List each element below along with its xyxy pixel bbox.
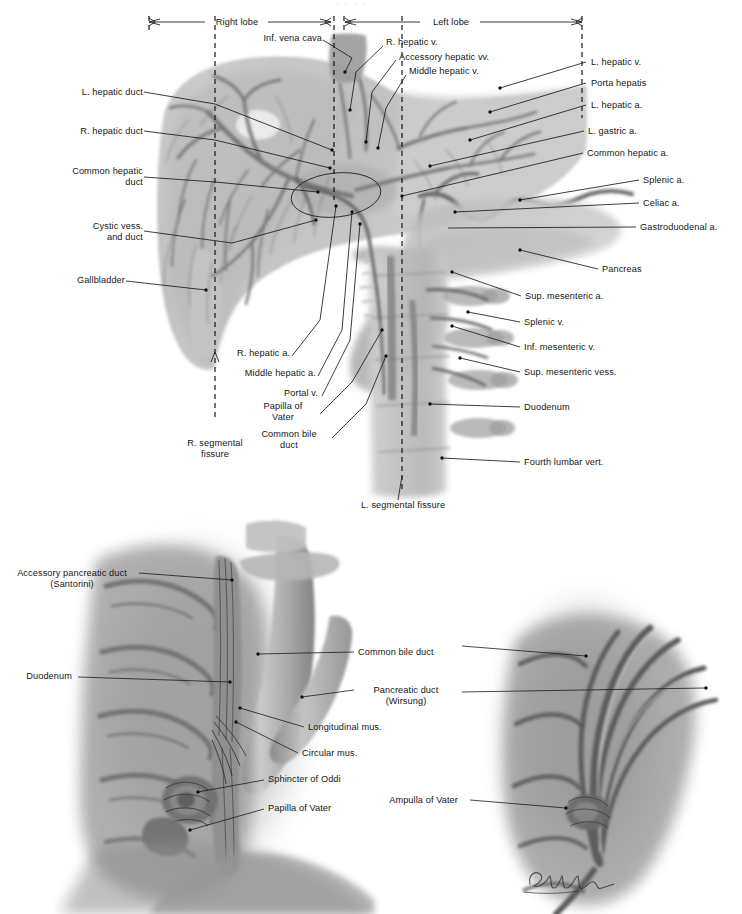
label-fourth-lumbar-vert: Fourth lumbar vert. <box>524 457 604 468</box>
label-sup-mesenteric-vess: Sup. mesenteric vess. <box>524 367 616 378</box>
label-gastroduodenal-a: Gastroduodenal a. <box>640 222 717 233</box>
label-r-hepatic-a: R. hepatic a. <box>180 348 290 359</box>
label-l-gastric-a: L. gastric a. <box>588 126 637 137</box>
label-portal-v: Portal v. <box>200 388 318 399</box>
label-accessory-pancreatic-duct: Accessory pancreatic duct (Santorini) <box>6 568 138 589</box>
label-l-segmental-fissure: L. segmental fissure <box>343 500 463 511</box>
label-accessory-pancreatic-duct-line1: Accessory pancreatic duct <box>17 568 127 578</box>
label-longitudinal-mus: Longitudinal mus. <box>308 722 382 733</box>
ampulla-detail <box>462 592 716 914</box>
label-l-hepatic-v: L. hepatic v. <box>591 57 641 68</box>
label-celiac-a: Celiac a. <box>643 198 680 209</box>
label-splenic-a: Splenic a. <box>643 175 684 186</box>
label-r-hepatic-duct: R. hepatic duct <box>0 126 143 137</box>
label-pancreatic-duct-wirsung: Pancreatic duct (Wirsung) <box>358 685 454 706</box>
label-papilla-of-vater-top-line1: Papilla of <box>264 401 303 411</box>
label-pancreatic-duct-line1: Pancreatic duct <box>374 685 439 695</box>
lumbar-spine <box>368 248 518 498</box>
label-duodenum-bottom: Duodenum <box>0 671 72 682</box>
label-common-hepatic-duct-line2: duct <box>125 177 143 187</box>
label-cystic-vess-line1: Cystic vess. <box>93 221 143 231</box>
anatomy-plate: · · · · <box>0 0 742 914</box>
label-accessory-hepatic-vv: Accessory hepatic vv. <box>399 52 489 63</box>
label-papilla-of-vater-top: Papilla of Vater <box>248 401 318 422</box>
label-r-segmental-fissure-line2: fissure <box>201 449 229 459</box>
label-middle-hepatic-a: Middle hepatic a. <box>190 368 316 379</box>
label-common-bile-duct-top-line1: Common bile <box>261 429 316 439</box>
label-porta-hepatis: Porta hepatis <box>591 78 646 89</box>
label-sphincter-of-oddi: Sphincter of Oddi <box>268 774 341 785</box>
label-middle-hepatic-v: Middle hepatic v. <box>409 66 479 77</box>
label-r-segmental-fissure-line1: R. segmental <box>187 438 242 448</box>
label-sup-mesenteric-a: Sup. mesenteric a. <box>525 291 603 302</box>
label-pancreatic-duct-line2: (Wirsung) <box>386 696 427 706</box>
label-l-hepatic-a: L. hepatic a. <box>591 100 642 111</box>
label-circular-mus: Circular mus. <box>302 748 357 759</box>
label-cystic-vess-and-duct: Cystic vess. and duct <box>0 221 143 242</box>
label-common-bile-duct-bottom: Common bile duct <box>358 647 434 658</box>
label-splenic-v: Splenic v. <box>524 317 564 328</box>
label-ampulla-of-vater: Ampulla of Vater <box>300 795 458 806</box>
label-r-hepatic-v: R. hepatic v. <box>386 37 438 48</box>
label-inf-mesenteric-v: Inf. mesenteric v. <box>524 342 595 353</box>
label-common-hepatic-a: Common hepatic a. <box>587 148 668 159</box>
illustration-artwork <box>0 0 742 914</box>
label-papilla-of-vater-top-line2: Vater <box>272 412 294 422</box>
label-l-hepatic-duct: L. hepatic duct <box>0 87 143 98</box>
label-common-bile-duct-top-line2: duct <box>280 440 298 450</box>
label-gallbladder: Gallbladder <box>0 275 125 286</box>
label-common-hepatic-duct: Common hepatic duct <box>0 166 143 187</box>
label-accessory-pancreatic-duct-line2: (Santorini) <box>50 579 93 589</box>
label-common-hepatic-duct-line1: Common hepatic <box>72 166 143 176</box>
dimension-label-right-lobe: Right lobe <box>207 17 267 28</box>
label-common-bile-duct-top: Common bile duct <box>248 429 330 450</box>
label-inf-vena-cava: Inf. vena cava <box>170 33 322 44</box>
label-pancreas: Pancreas <box>602 264 642 275</box>
label-duodenum-top: Duodenum <box>524 402 570 413</box>
dimension-label-left-lobe: Left lobe <box>422 17 480 28</box>
label-cystic-vess-line2: and duct <box>107 232 143 242</box>
